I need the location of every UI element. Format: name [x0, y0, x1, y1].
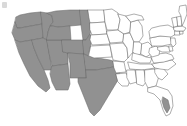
- state-south-dakota[interactable]: [90, 22, 107, 35]
- state-nebraska[interactable]: [90, 34, 110, 45]
- scan-artifact: [2, 2, 7, 8]
- state-north-dakota[interactable]: [88, 10, 105, 23]
- state-arizona[interactable]: [50, 64, 70, 90]
- us-map-figure: United States map with western region hi…: [0, 0, 187, 126]
- state-new-york[interactable]: [149, 25, 176, 38]
- state-alabama[interactable]: [136, 70, 146, 86]
- state-delaware[interactable]: [169, 46, 173, 51]
- state-connecticut[interactable]: [175, 31, 180, 35]
- us-map-svg: [0, 0, 187, 126]
- state-minnesota[interactable]: [104, 9, 120, 30]
- state-new-mexico[interactable]: [68, 53, 86, 78]
- state-new-jersey[interactable]: [171, 38, 176, 47]
- state-kansas[interactable]: [89, 45, 112, 58]
- state-florida[interactable]: [148, 86, 173, 116]
- state-colorado[interactable]: [62, 40, 84, 54]
- state-wyoming[interactable]: [47, 26, 71, 40]
- state-rhode-island[interactable]: [180, 31, 183, 34]
